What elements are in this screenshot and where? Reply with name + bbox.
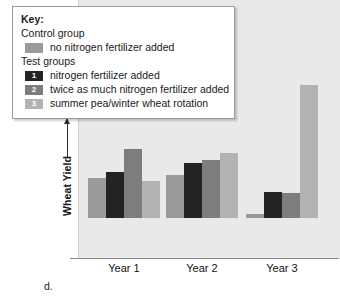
- bar-year-3-series-4: [300, 85, 318, 218]
- bar-year-1-series-3: [124, 149, 142, 218]
- legend-item-control: no nitrogen fertilizer added: [21, 41, 226, 55]
- bar-year-2-series-3: [202, 160, 220, 218]
- bar-year-3-series-1: [246, 214, 264, 218]
- bar-year-1-series-1: [88, 178, 106, 218]
- x-tick-label-3: Year 3: [234, 262, 330, 274]
- legend-item-3: 3 summer pea/winter wheat rotation: [21, 97, 226, 111]
- legend-swatch-2: 2: [25, 85, 43, 95]
- bar-year-2-series-4: [220, 153, 238, 218]
- legend-test-heading: Test groups: [21, 55, 226, 69]
- x-axis-line: [70, 258, 339, 259]
- legend-label-1: nitrogen fertilizer added: [50, 69, 160, 83]
- bar-year-2-series-1: [166, 175, 184, 218]
- y-axis-label: Wheat Yield: [61, 131, 73, 241]
- bar-year-2-series-2: [184, 163, 202, 218]
- legend-label-control: no nitrogen fertilizer added: [50, 41, 174, 55]
- y-axis: Wheat Yield: [56, 118, 78, 260]
- legend-item-1: 1 nitrogen fertilizer added: [21, 69, 226, 83]
- figure-caption: d.: [44, 280, 53, 292]
- legend-title: Key:: [21, 13, 226, 26]
- legend-swatch-3: 3: [25, 99, 43, 109]
- bar-year-3-series-2: [264, 192, 282, 218]
- legend-swatch-1: 1: [25, 71, 43, 81]
- bar-year-3-series-3: [282, 193, 300, 218]
- legend-control-heading: Control group: [21, 27, 226, 41]
- legend-box: Key: Control group no nitrogen fertilize…: [12, 6, 235, 119]
- x-axis-tick-labels: Year 1Year 2Year 3: [0, 262, 339, 278]
- legend-label-3: summer pea/winter wheat rotation: [50, 97, 208, 111]
- legend-label-2: twice as much nitrogen fertilizer added: [50, 83, 229, 97]
- bar-year-1-series-2: [106, 172, 124, 218]
- bar-year-1-series-4: [142, 181, 160, 218]
- legend-item-2: 2 twice as much nitrogen fertilizer adde…: [21, 83, 226, 97]
- legend-swatch-control: [25, 43, 43, 53]
